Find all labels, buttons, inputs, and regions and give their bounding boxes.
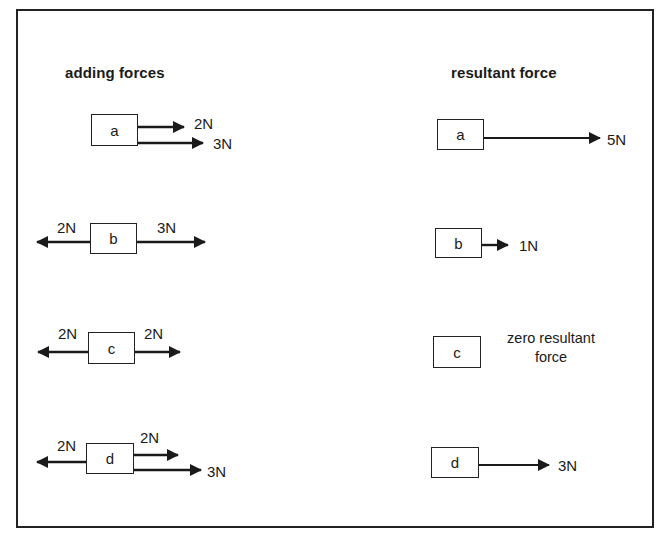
force-label-c-2n-right: 2N: [144, 326, 163, 341]
object-box-b: b: [90, 223, 137, 254]
box-label: c: [108, 340, 116, 357]
object-box-d: d: [86, 443, 134, 474]
resultant-box-c: c: [433, 336, 481, 368]
force-label-b-2n: 2N: [57, 220, 76, 235]
box-label: a: [456, 126, 464, 143]
object-box-a: a: [91, 114, 138, 146]
box-label: d: [451, 454, 459, 471]
zero-resultant-line2: force: [493, 348, 609, 367]
force-label-c-2n-left: 2N: [58, 326, 77, 341]
box-label: c: [453, 344, 461, 361]
resultant-label-a-5n: 5N: [607, 132, 626, 147]
force-label-d-3n-right: 3N: [207, 464, 226, 479]
force-diagram: adding forces resultant force a 2N 3N: [0, 0, 659, 533]
resultant-label-d-3n: 3N: [558, 458, 577, 473]
resultant-box-b: b: [435, 228, 482, 258]
force-label-a-3n: 3N: [213, 136, 232, 151]
zero-resultant-line1: zero resultant: [493, 329, 609, 348]
box-label: a: [110, 122, 118, 139]
force-label-a-2n: 2N: [194, 116, 213, 131]
zero-resultant-note: zero resultant force: [493, 329, 609, 367]
box-label: b: [454, 235, 462, 252]
object-box-c: c: [88, 332, 135, 364]
force-label-d-2n-right: 2N: [140, 430, 159, 445]
resultant-box-d: d: [431, 447, 479, 478]
force-label-b-3n: 3N: [157, 220, 176, 235]
box-label: d: [106, 450, 114, 467]
resultant-label-b-1n: 1N: [519, 238, 538, 253]
resultant-force-heading: resultant force: [451, 64, 557, 81]
box-label: b: [109, 230, 117, 247]
force-label-d-2n-left: 2N: [57, 438, 76, 453]
resultant-box-a: a: [437, 119, 484, 150]
adding-forces-heading: adding forces: [65, 64, 165, 81]
